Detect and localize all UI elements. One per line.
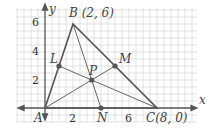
y-neg-arrow-icon — [43, 114, 48, 120]
point-M — [112, 63, 117, 68]
y-axis-label: y — [48, 2, 56, 16]
label-N: N — [96, 111, 108, 125]
point-P — [89, 77, 94, 82]
label-M: M — [118, 52, 132, 66]
coordinate-diagram: y x 6 4 2 2 6 B (2, 6) C(8, 0) A L M P N — [0, 0, 211, 131]
label-A: A — [33, 111, 43, 125]
x-tick-6: 6 — [125, 112, 132, 125]
label-C: C(8, 0) — [146, 111, 188, 125]
x-axis-label: x — [199, 93, 206, 107]
x-arrow-icon — [191, 106, 197, 111]
axes — [18, 4, 197, 120]
y-tick-2: 2 — [32, 74, 39, 87]
y-arrow-icon — [43, 4, 48, 10]
y-tick-4: 4 — [32, 45, 39, 58]
x-tick-2: 2 — [69, 112, 76, 125]
label-P: P — [88, 64, 98, 78]
grid — [17, 8, 197, 122]
x-neg-arrow-icon — [18, 106, 24, 111]
point-N — [98, 105, 103, 110]
label-L: L — [49, 52, 58, 66]
y-tick-6: 6 — [32, 16, 39, 29]
label-B: B (2, 6) — [68, 6, 114, 20]
